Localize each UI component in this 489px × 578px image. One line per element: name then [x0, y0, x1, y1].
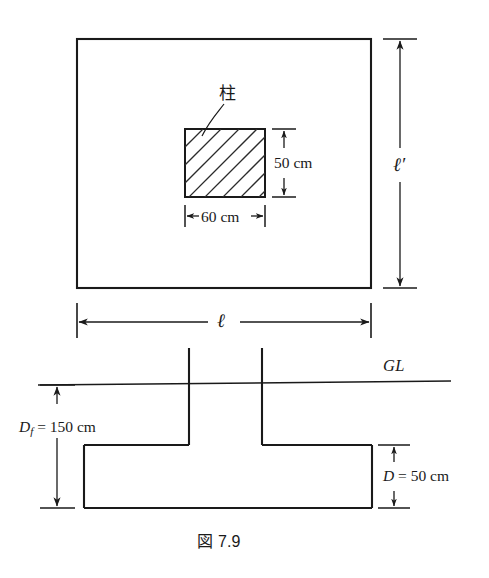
column-hatched-rect [185, 129, 271, 209]
footing-section-profile [84, 348, 372, 508]
embedment-subscript-text: f [30, 425, 33, 437]
ground-line-label: GL [383, 358, 405, 375]
figure-caption-prefix: 図 [197, 532, 213, 551]
plan-width-symbol-label: ℓ [217, 311, 225, 330]
embedment-depth-label: Df = 150 cm [19, 419, 96, 437]
figure-caption: 図 7.9 [197, 534, 240, 550]
ground-line [38, 381, 451, 385]
figure-drawing-canvas [0, 0, 489, 578]
column-height-label: 50 cm [274, 155, 312, 171]
figure-caption-number: 7.9 [218, 533, 240, 550]
column-label: 柱 [219, 85, 236, 102]
thickness-symbol-text: D [383, 467, 394, 484]
plan-length-symbol-text: ℓ′ [393, 154, 405, 175]
embedment-symbol-text: D [19, 418, 30, 435]
plan-length-symbol-label: ℓ′ [393, 155, 405, 174]
embedment-value-text: = 150 cm [37, 418, 96, 435]
figure-7-9: 柱 50 cm 60 cm ℓ′ ℓ GL Df = 150 cm D = 50… [0, 0, 489, 578]
embedment-depth-dimension [40, 385, 75, 508]
column-width-label: 60 cm [201, 209, 239, 225]
thickness-value-text: = 50 cm [398, 467, 449, 484]
footing-thickness-label: D = 50 cm [383, 468, 449, 484]
